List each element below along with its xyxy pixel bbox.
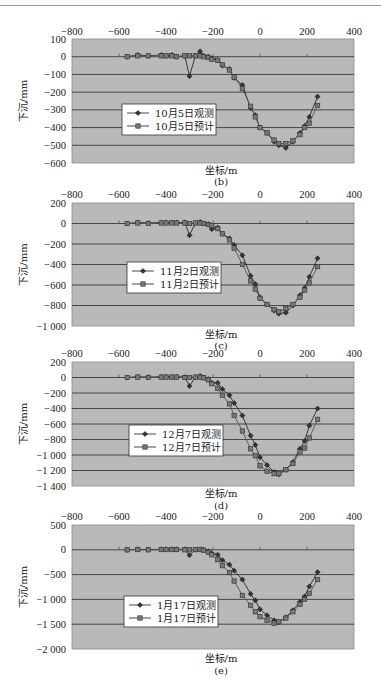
data-point [146,548,150,552]
y-tick-label: −1 400 [36,481,66,492]
legend-entry: 12月7日观测 [162,428,221,440]
data-point [164,547,168,551]
data-point [174,55,178,59]
data-point [315,417,319,421]
data-point [291,610,295,614]
legend-entry: 11月2日观测 [160,265,219,277]
data-point [210,382,214,386]
y-tick-label: −1 200 [36,465,66,476]
y-tick-label: 0 [61,51,66,62]
data-point [272,307,276,311]
data-point [272,621,276,625]
x-tick-label: −400 [155,511,177,522]
x-axis-label: 坐标/m [205,165,238,176]
legend: 10月5日观测10月5日预计 [122,104,216,135]
y-tick-label: −400 [44,403,66,414]
data-point [272,471,276,475]
data-point [307,281,311,285]
data-point [265,302,269,306]
legend-square-icon [138,616,142,620]
y-tick-label: −400 [44,259,66,270]
data-point [210,57,214,61]
data-point [232,75,236,79]
data-point [193,221,197,225]
data-point [125,548,129,552]
data-point [284,468,288,472]
x-tick-label: −600 [108,511,130,522]
legend-entry: 1月17日观测 [157,599,216,611]
legend-entry: 10月5日观测 [155,107,214,119]
data-point [187,548,191,552]
data-point [265,618,269,622]
x-axis-label: 坐标/m [205,329,238,340]
data-point [174,547,178,551]
y-tick-label: −500 [44,140,66,151]
data-point [201,548,205,552]
data-point [232,413,236,417]
x-tick-label: −600 [108,189,130,200]
x-tick-label: 200 [299,511,315,522]
data-point [183,221,187,225]
x-tick-label: −200 [202,511,224,522]
data-point [183,375,187,379]
data-point [298,450,302,454]
data-point [125,221,129,225]
x-tick-label: −400 [155,189,177,200]
y-tick-label: −300 [44,104,66,115]
chart-panel-2: −800−600−400−20002004002000−200−400−600−… [17,189,362,351]
y-tick-label: −1 000 [36,321,66,332]
y-tick-label: 0 [61,372,66,383]
data-point [315,577,319,581]
legend-entry: 10月5日预计 [155,120,214,132]
data-point [277,141,281,145]
y-tick-label: −1 000 [36,594,66,605]
data-point [298,132,302,136]
y-tick-label: −1 500 [36,619,66,630]
chart-panel-1: −800−600−400−20002004001000−100−200−300−… [17,26,362,187]
y-tick-label: −1 000 [36,450,66,461]
y-tick-label: −800 [44,434,66,445]
data-point [248,279,252,283]
x-tick-label: 400 [346,348,362,359]
legend-entry: 12月7日预计 [162,441,221,453]
data-point [307,121,311,125]
x-tick-label: 400 [346,26,362,37]
y-tick-label: −2 000 [36,644,66,655]
data-point [216,386,220,390]
x-tick-label: −600 [108,348,130,359]
data-point [146,375,150,379]
data-point [193,54,197,58]
data-point [315,103,319,107]
x-tick-label: −400 [155,348,177,359]
data-point [216,58,220,62]
data-point [136,54,140,58]
data-point [164,221,168,225]
legend-entry: 1月17日预计 [157,612,216,624]
panel-label: (e) [214,665,228,676]
data-point [302,446,306,450]
data-point [272,138,276,142]
data-point [253,287,257,291]
data-point [284,306,288,310]
data-point [170,221,174,225]
data-point [240,262,244,266]
data-point [159,221,163,225]
data-point [183,548,187,552]
data-point [277,620,281,624]
legend-square-icon [143,445,147,449]
y-tick-label: 100 [50,34,66,45]
data-point [265,469,269,473]
x-tick-label: 200 [299,348,315,359]
y-tick-label: 200 [50,357,66,368]
y-axis-label: 下沉/mm [17,79,29,122]
data-point [315,264,319,268]
data-point [170,375,174,379]
legend-square-icon [136,124,140,128]
data-point [220,393,224,397]
y-axis-label: 下沉/mm [17,243,29,286]
data-point [193,547,197,551]
x-tick-label: 200 [299,189,315,200]
data-point [248,447,252,451]
data-point [220,232,224,236]
data-point [253,115,257,119]
